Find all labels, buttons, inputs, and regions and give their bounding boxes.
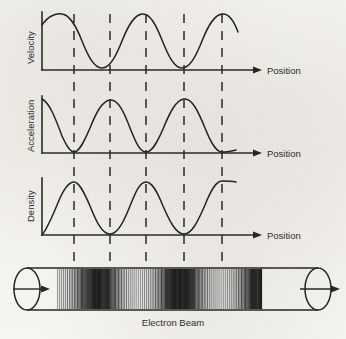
density-x-axis-arrow — [253, 232, 262, 239]
acceleration-ylabel: Acceleration — [25, 100, 36, 152]
figure-container: Position Velocity Position Acceleration … — [0, 0, 346, 339]
density-curve — [42, 181, 236, 235]
electron-bunch-lines — [58, 269, 262, 309]
velocity-xlabel: Position — [267, 65, 301, 76]
panel-acceleration: Position Acceleration — [25, 96, 301, 159]
velocity-ylabel: Velocity — [25, 31, 36, 64]
acceleration-x-axis-arrow — [253, 150, 262, 157]
panel-density: Position Density — [25, 178, 301, 241]
reference-lines — [74, 14, 222, 266]
beam-entry-arrow-head — [41, 286, 50, 293]
density-ylabel: Density — [25, 190, 36, 222]
beam-caption: Electron Beam — [142, 317, 204, 328]
acceleration-xlabel: Position — [267, 148, 301, 159]
panel-velocity: Position Velocity — [25, 12, 301, 76]
density-xlabel: Position — [267, 230, 301, 241]
electron-beam-bunching-figure: Position Velocity Position Acceleration … — [0, 0, 346, 339]
beam-exit-arrow-head — [331, 286, 340, 293]
acceleration-curve — [42, 99, 236, 152]
velocity-x-axis-arrow — [253, 67, 262, 74]
electron-beam-tube: Electron Beam — [13, 268, 340, 328]
velocity-curve — [42, 14, 238, 68]
